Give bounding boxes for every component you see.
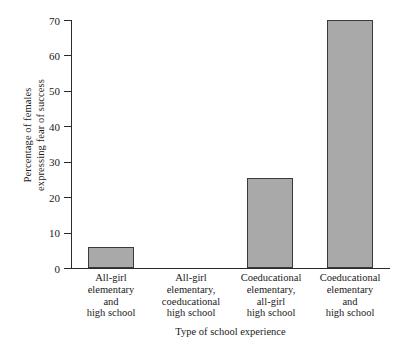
y-axis-title: Percentage of females expressing fear of… bbox=[18, 0, 50, 270]
x-category-label-line: and bbox=[310, 296, 390, 308]
y-tick: 20 bbox=[64, 197, 71, 198]
bar-chart: Percentage of females expressing fear of… bbox=[0, 0, 399, 355]
x-category-label-line: All-girl bbox=[71, 272, 151, 284]
y-tick-label: 60 bbox=[49, 50, 60, 61]
bar bbox=[247, 178, 293, 268]
y-axis-title-line-1: Percentage of females bbox=[21, 79, 34, 191]
y-tick-label: 40 bbox=[49, 121, 60, 132]
x-category-label: Coeducationalelementary,all-girlhigh sch… bbox=[231, 272, 311, 319]
x-category-label-line: elementary bbox=[310, 284, 390, 296]
plot-area: 010203040506070 bbox=[71, 20, 390, 268]
y-tick: 60 bbox=[64, 55, 71, 56]
y-tick-label: 0 bbox=[55, 263, 61, 274]
y-tick: 40 bbox=[64, 126, 71, 127]
y-tick: 70 bbox=[64, 20, 71, 21]
y-tick-label: 30 bbox=[49, 157, 60, 168]
bar bbox=[88, 247, 134, 268]
x-category-label-line: coeducational bbox=[151, 296, 231, 308]
y-tick: 0 bbox=[64, 268, 71, 269]
x-category-label-line: Coeducational bbox=[231, 272, 311, 284]
x-category-label-line: and bbox=[71, 296, 151, 308]
y-tick-label: 50 bbox=[49, 86, 60, 97]
x-category-label-line: Coeducational bbox=[310, 272, 390, 284]
x-category-label-line: elementary, bbox=[151, 284, 231, 296]
y-tick: 50 bbox=[64, 91, 71, 92]
y-tick: 30 bbox=[64, 162, 71, 163]
x-axis-line bbox=[71, 268, 390, 269]
x-category-label-line: all-girl bbox=[231, 296, 311, 308]
x-category-label-line: high school bbox=[151, 307, 231, 319]
x-category-label: All-girlelementary,coeducationalhigh sch… bbox=[151, 272, 231, 319]
x-category-label-line: high school bbox=[310, 307, 390, 319]
x-axis-category-labels: All-girlelementaryandhigh schoolAll-girl… bbox=[71, 272, 390, 324]
y-tick-label: 10 bbox=[49, 228, 60, 239]
y-tick-label: 70 bbox=[49, 15, 60, 26]
y-axis-line bbox=[71, 20, 72, 269]
x-category-label: All-girlelementaryandhigh school bbox=[71, 272, 151, 319]
x-axis-title: Type of school experience bbox=[71, 326, 390, 338]
x-category-label-line: All-girl bbox=[151, 272, 231, 284]
x-category-label-line: high school bbox=[231, 307, 311, 319]
x-category-label-line: high school bbox=[71, 307, 151, 319]
x-category-label-line: elementary bbox=[71, 284, 151, 296]
bar bbox=[327, 20, 373, 268]
y-tick: 10 bbox=[64, 233, 71, 234]
x-category-label: Coeducationalelementaryandhigh school bbox=[310, 272, 390, 319]
y-tick-label: 20 bbox=[49, 192, 60, 203]
x-category-label-line: elementary, bbox=[231, 284, 311, 296]
y-axis-title-line-2: expressing fear of success bbox=[34, 79, 47, 191]
